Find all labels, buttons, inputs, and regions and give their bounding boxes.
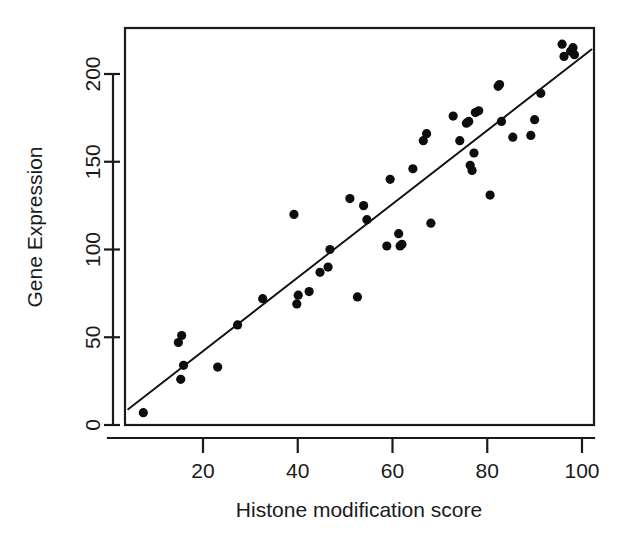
data-point — [325, 245, 334, 254]
x-axis-title: Histone modification score — [236, 498, 482, 521]
regression-line-path — [128, 49, 591, 409]
data-point — [305, 287, 314, 296]
data-point — [386, 175, 395, 184]
y-axis-title: Gene Expression — [23, 146, 46, 307]
data-point — [258, 294, 267, 303]
data-point — [362, 215, 371, 224]
scatter-plot-figure: 050100150200 20406080100 Gene Expression… — [0, 0, 633, 548]
x-tick-label: 40 — [286, 459, 309, 482]
data-point — [394, 229, 403, 238]
y-tick-label: 100 — [81, 232, 104, 267]
data-point — [315, 268, 324, 277]
data-point — [292, 299, 301, 308]
plot-frame — [125, 28, 594, 425]
data-point — [382, 241, 391, 250]
data-point — [495, 80, 504, 89]
data-points — [139, 40, 579, 418]
data-point — [213, 362, 222, 371]
x-axis-ticks — [203, 438, 582, 453]
data-point — [176, 375, 185, 384]
data-point — [508, 133, 517, 142]
plot-canvas: 050100150200 20406080100 Gene Expression… — [0, 0, 633, 548]
x-tick-label: 20 — [191, 459, 214, 482]
data-point — [323, 262, 332, 271]
data-point — [408, 164, 417, 173]
y-tick-label: 50 — [81, 326, 104, 349]
y-tick-label: 0 — [81, 419, 104, 431]
data-point — [449, 112, 458, 121]
data-point — [422, 129, 431, 138]
data-point — [397, 240, 406, 249]
data-point — [497, 117, 506, 126]
y-tick-label: 150 — [81, 144, 104, 179]
data-point — [233, 320, 242, 329]
data-point — [570, 50, 579, 59]
data-point — [469, 148, 478, 157]
data-point — [359, 201, 368, 210]
data-point — [177, 331, 186, 340]
data-point — [426, 219, 435, 228]
data-point — [464, 117, 473, 126]
x-tick-label: 80 — [476, 459, 499, 482]
data-point — [485, 190, 494, 199]
data-point — [139, 408, 148, 417]
data-point — [294, 291, 303, 300]
data-point — [289, 210, 298, 219]
data-point — [536, 89, 545, 98]
data-point — [467, 166, 476, 175]
data-point — [353, 292, 362, 301]
x-tick-label: 100 — [564, 459, 599, 482]
data-point — [474, 106, 483, 115]
data-point — [455, 136, 464, 145]
data-point — [526, 131, 535, 140]
y-axis-tick-labels: 050100150200 — [81, 56, 104, 430]
data-point — [345, 194, 354, 203]
data-point — [179, 361, 188, 370]
x-tick-label: 60 — [381, 459, 404, 482]
regression-line — [128, 49, 591, 409]
data-point — [558, 40, 567, 49]
data-point — [530, 115, 539, 124]
x-axis-tick-labels: 20406080100 — [191, 459, 599, 482]
y-tick-label: 200 — [81, 56, 104, 91]
